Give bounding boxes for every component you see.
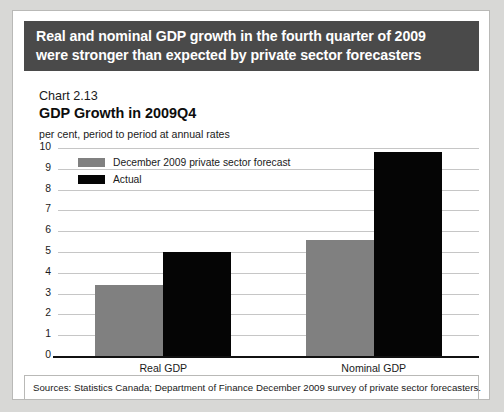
x-axis-label-real-gdp: Real GDP	[139, 362, 187, 374]
headline-line-1: Real and nominal GDP growth in the fourt…	[36, 27, 467, 46]
bar-forecast-real-gdp	[95, 285, 163, 356]
y-axis-tick-label: 5	[45, 245, 51, 256]
y-axis-tick-label: 9	[45, 162, 51, 173]
legend-swatch-forecast	[78, 158, 105, 167]
chart-card: Real and nominal GDP growth in the fourt…	[12, 10, 490, 400]
chart-title: GDP Growth in 2009Q4	[39, 105, 196, 121]
y-axis-tick-label: 8	[45, 183, 51, 194]
y-axis-tick-label: 10	[39, 141, 51, 152]
source-note: Sources: Statistics Canada; Department o…	[33, 382, 481, 393]
chart-number: Chart 2.13	[39, 89, 98, 103]
source-box: Sources: Statistics Canada; Department o…	[24, 375, 479, 400]
x-axis-line	[53, 356, 479, 358]
legend-label-forecast: December 2009 private sector forecast	[113, 157, 290, 168]
y-axis-tick-label: 0	[45, 349, 51, 360]
legend-item-actual: Actual	[78, 173, 290, 185]
chart-units-label: per cent, period to period at annual rat…	[39, 128, 230, 140]
y-axis-tick-label: 6	[45, 224, 51, 235]
x-axis-label-nominal-gdp: Nominal GDP	[341, 362, 406, 374]
y-axis-tick-label: 1	[45, 328, 51, 339]
legend-item-forecast: December 2009 private sector forecast	[78, 156, 290, 168]
bar-actual-nominal-gdp	[374, 152, 442, 356]
y-axis-tick-label: 3	[45, 287, 51, 298]
y-axis-tick-label: 2	[45, 307, 51, 318]
chart-legend: December 2009 private sector forecast Ac…	[78, 156, 290, 190]
y-axis-tick-label: 7	[45, 203, 51, 214]
headline-banner: Real and nominal GDP growth in the fourt…	[24, 21, 479, 71]
headline-line-2: were stronger than expected by private s…	[36, 46, 467, 65]
legend-swatch-actual	[78, 175, 105, 184]
bar-actual-real-gdp	[163, 252, 231, 356]
bar-forecast-nominal-gdp	[306, 240, 374, 356]
legend-label-actual: Actual	[113, 174, 142, 185]
y-axis-tick-label: 4	[45, 266, 51, 277]
gridline	[58, 148, 479, 149]
